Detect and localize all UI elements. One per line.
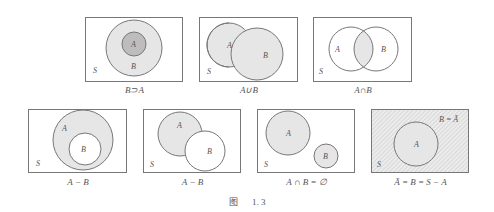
venn-a-union-b-svg: A B S (199, 17, 299, 83)
venn-a-minus-b-nested: A B S (28, 109, 128, 174)
figure-caption-prefix: 图 (229, 197, 238, 207)
venn-disjoint-svg: A B S (257, 109, 356, 174)
set-b-label: B (381, 45, 386, 54)
venn-complement-svg: A B = Ā S (371, 109, 470, 174)
figure-caption: 图 1. 3 (0, 195, 494, 208)
set-a-label: A (285, 129, 291, 138)
universe-label: S (36, 159, 40, 168)
venn-a-minus-b-overlap-svg: A B S (143, 109, 242, 174)
set-b-label: B (263, 51, 268, 60)
venn-complement: A B = Ā S (371, 109, 470, 174)
set-b-label: B (207, 147, 212, 156)
venn-a-intersect-b-svg: A B S (313, 17, 413, 83)
caption-a-minus-b-overlap: A − B (143, 177, 242, 187)
figure-caption-number: 1. 3 (252, 197, 266, 207)
caption-b-superset-a: B⊃A (85, 85, 184, 95)
caption-disjoint: A ∩ B = ∅ (257, 177, 356, 187)
set-a-label: A (130, 40, 136, 49)
caption-a-union-b: A∪B (199, 85, 299, 95)
universe-label: S (264, 160, 268, 169)
venn-a-minus-b-nested-svg: A B S (28, 109, 128, 174)
caption-a-intersect-b: A∩B (313, 85, 413, 95)
universe-label: S (93, 66, 97, 75)
venn-disjoint: A B S (257, 109, 356, 174)
universe-label: S (150, 160, 154, 169)
set-a-label: A (334, 45, 340, 54)
set-a-label: A (413, 140, 419, 149)
caption-complement: Ā = B = S − A (371, 177, 470, 187)
universe-label: S (377, 160, 381, 169)
set-b-label: B (323, 152, 328, 161)
venn-a-minus-b-overlap: A B S (143, 109, 242, 174)
venn-a-intersect-b: A B S (313, 17, 413, 83)
set-a-label: A (176, 121, 182, 130)
caption-a-minus-b-nested: A − B (28, 177, 128, 187)
set-a-label: A (61, 124, 67, 133)
set-b-label: B (81, 145, 86, 154)
venn-b-superset-a-svg: A B S (85, 17, 184, 83)
set-a-label: A (226, 41, 232, 50)
venn-b-superset-a: A B S (85, 17, 184, 83)
universe-label: S (207, 67, 211, 76)
universe-label: S (319, 67, 323, 76)
set-b-label: B (131, 62, 136, 71)
set-b-label: B = Ā (439, 115, 458, 124)
venn-a-union-b: A B S (199, 17, 299, 83)
